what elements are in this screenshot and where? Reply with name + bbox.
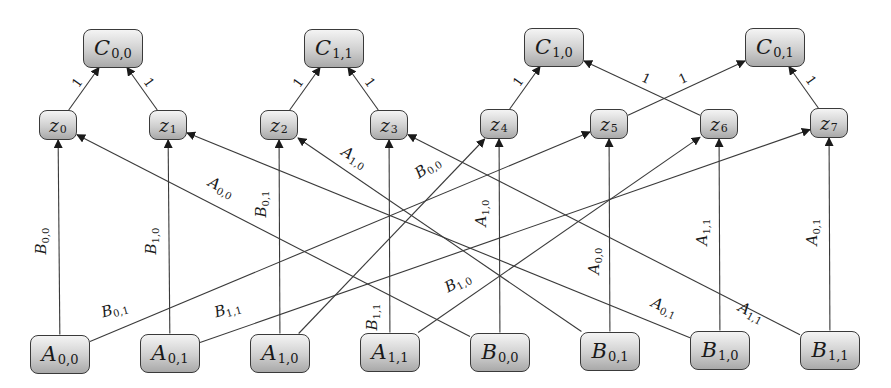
node-label: z bbox=[49, 115, 58, 136]
node-z0: z0 bbox=[39, 110, 77, 140]
node-label: B bbox=[811, 338, 826, 362]
edge-coefficient-label: B0,0 bbox=[32, 228, 50, 255]
edge-A01-z7 bbox=[200, 130, 810, 343]
node-subscript: 1,0 bbox=[718, 348, 739, 363]
node-label: z bbox=[490, 114, 499, 135]
node-z2: z2 bbox=[260, 110, 298, 140]
edge-A00-z0 bbox=[58, 140, 60, 335]
edge-B10-z6 bbox=[719, 139, 720, 331]
edge-B00-z0 bbox=[77, 135, 470, 337]
node-subscript: 1 bbox=[170, 123, 177, 136]
node-label: C bbox=[315, 36, 331, 60]
node-label: A bbox=[152, 341, 167, 365]
node-label: B bbox=[591, 339, 606, 363]
label-subscript: 0,1 bbox=[811, 219, 822, 235]
node-label: C bbox=[756, 35, 772, 59]
node-subscript: 0 bbox=[60, 123, 67, 136]
edge-coefficient-label: B1,1 bbox=[363, 304, 381, 331]
edge-B11-z7 bbox=[829, 138, 830, 331]
node-c00: C0,0 bbox=[83, 29, 143, 68]
matrix-multiplication-diagram: C0,0C1,1C1,0C0,1z0z1z2z3z4z5z6z7A0,0A0,1… bbox=[0, 0, 891, 388]
node-z6: z6 bbox=[700, 109, 738, 139]
node-subscript: 1,0 bbox=[278, 351, 299, 366]
node-b00: B0,0 bbox=[470, 333, 530, 372]
node-z1: z1 bbox=[149, 110, 187, 140]
edge-coefficient-label: B0,1 bbox=[252, 191, 270, 218]
label-base: B bbox=[363, 319, 381, 330]
label-subscript: 1,1 bbox=[371, 304, 382, 320]
edge-B00-z4 bbox=[499, 139, 500, 333]
label-subscript: 1,1 bbox=[701, 219, 712, 235]
label-base: A bbox=[585, 264, 603, 275]
node-label: C bbox=[535, 35, 551, 59]
edge-A11-z3 bbox=[389, 140, 390, 333]
node-subscript: 1,1 bbox=[828, 348, 849, 363]
edge-coefficient-label: A0,1 bbox=[803, 219, 821, 246]
label-subscript: 0,0 bbox=[40, 228, 51, 244]
node-subscript: 1,1 bbox=[388, 350, 409, 365]
node-c01: C0,1 bbox=[745, 28, 805, 67]
node-b11: B1,1 bbox=[800, 331, 860, 370]
node-b10: B1,0 bbox=[690, 331, 750, 370]
node-subscript: 0,1 bbox=[168, 351, 189, 366]
edge-A01-z1 bbox=[168, 140, 170, 334]
label-base: B bbox=[252, 206, 270, 217]
node-subscript: 1,0 bbox=[552, 45, 573, 60]
label-base: A bbox=[472, 216, 490, 227]
node-a10: A1,0 bbox=[250, 334, 310, 373]
edge-coefficient-label: A1,0 bbox=[472, 200, 490, 227]
node-subscript: 0,0 bbox=[111, 46, 132, 61]
node-z4: z4 bbox=[480, 109, 518, 139]
label-subscript: 1,0 bbox=[150, 228, 161, 244]
label-base: B bbox=[32, 243, 50, 254]
edge-coefficient-label: A1,1 bbox=[693, 219, 711, 246]
node-c11: C1,1 bbox=[304, 29, 364, 68]
node-subscript: 5 bbox=[611, 122, 618, 135]
edge-coefficient-label: A0,0 bbox=[585, 248, 603, 275]
edge-A00-z5 bbox=[90, 132, 590, 341]
node-subscript: 0,1 bbox=[608, 349, 629, 364]
node-subscript: 6 bbox=[721, 122, 728, 135]
node-a11: A1,1 bbox=[360, 333, 420, 372]
node-z7: z7 bbox=[810, 108, 848, 138]
node-label: A bbox=[372, 340, 387, 364]
node-label: z bbox=[820, 113, 829, 134]
node-subscript: 0,0 bbox=[58, 352, 79, 367]
node-label: A bbox=[262, 341, 277, 365]
node-label: A bbox=[42, 342, 57, 366]
label-base: A bbox=[803, 235, 821, 246]
edge-coefficient-label: B1,0 bbox=[142, 228, 160, 255]
node-subscript: 1,1 bbox=[332, 46, 353, 61]
edge-B01-z5 bbox=[609, 139, 610, 332]
edge-A10-z4 bbox=[299, 139, 485, 334]
edge-A10-z2 bbox=[279, 140, 280, 334]
node-subscript: 3 bbox=[391, 123, 398, 136]
node-label: B bbox=[481, 340, 496, 364]
label-subscript: 0,1 bbox=[260, 191, 271, 207]
node-label: z bbox=[159, 115, 168, 136]
node-label: B bbox=[701, 338, 716, 362]
label-base: A bbox=[693, 235, 711, 246]
node-subscript: 0,1 bbox=[773, 45, 794, 60]
node-a01: A0,1 bbox=[140, 334, 200, 373]
node-z3: z3 bbox=[370, 110, 408, 140]
node-subscript: 7 bbox=[831, 121, 838, 134]
node-label: z bbox=[710, 114, 719, 135]
node-c10: C1,0 bbox=[524, 28, 584, 67]
label-subscript: 0,0 bbox=[593, 248, 604, 264]
node-label: z bbox=[270, 115, 279, 136]
node-label: C bbox=[94, 36, 110, 60]
node-a00: A0,0 bbox=[30, 335, 90, 374]
node-label: z bbox=[380, 115, 389, 136]
label-base: B bbox=[142, 243, 160, 254]
node-subscript: 4 bbox=[501, 122, 508, 135]
node-z5: z5 bbox=[590, 109, 628, 139]
node-b01: B0,1 bbox=[580, 332, 640, 371]
node-subscript: 2 bbox=[281, 123, 288, 136]
label-subscript: 1,0 bbox=[480, 200, 491, 216]
node-subscript: 0,0 bbox=[498, 350, 519, 365]
node-label: z bbox=[600, 114, 609, 135]
